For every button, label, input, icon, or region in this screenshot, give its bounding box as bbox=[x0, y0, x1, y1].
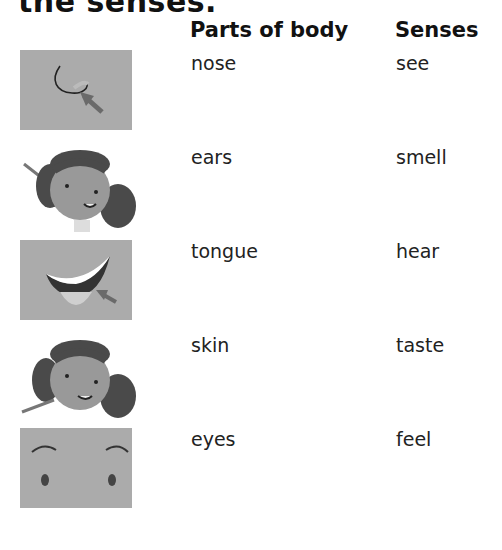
part-nose: nose bbox=[191, 52, 236, 74]
page-title: the senses. bbox=[18, 0, 217, 19]
parts-header: Parts of body bbox=[190, 18, 348, 42]
part-tongue: tongue bbox=[191, 240, 258, 262]
eyes-picture bbox=[20, 428, 132, 508]
part-skin: skin bbox=[191, 334, 229, 356]
sense-taste: taste bbox=[396, 334, 444, 356]
sense-see: see bbox=[396, 52, 429, 74]
sense-feel: feel bbox=[396, 428, 431, 450]
part-ears: ears bbox=[191, 146, 232, 168]
nose-picture bbox=[20, 50, 132, 130]
sense-smell: smell bbox=[396, 146, 447, 168]
ears-picture bbox=[14, 144, 144, 234]
senses-header: Senses bbox=[395, 18, 479, 42]
sense-hear: hear bbox=[396, 240, 439, 262]
skin-picture bbox=[14, 334, 144, 424]
part-eyes: eyes bbox=[191, 428, 236, 450]
tongue-picture bbox=[20, 240, 132, 320]
